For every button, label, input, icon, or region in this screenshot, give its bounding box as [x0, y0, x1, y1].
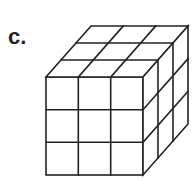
cube-3x3x3 [46, 26, 188, 175]
cube-diagram [0, 0, 195, 194]
front-face [46, 77, 143, 175]
